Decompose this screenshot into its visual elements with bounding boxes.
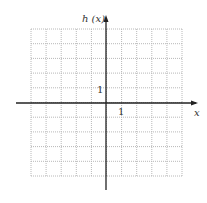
y-axis-label: h (x) xyxy=(82,13,105,24)
x-tick-label: 1 xyxy=(118,106,124,117)
x-axis-arrow-icon xyxy=(191,101,198,106)
coordinate-plane: h (x) x 1 1 xyxy=(0,0,207,203)
y-tick-label: 1 xyxy=(97,84,103,95)
x-axis-label: x xyxy=(194,107,200,118)
